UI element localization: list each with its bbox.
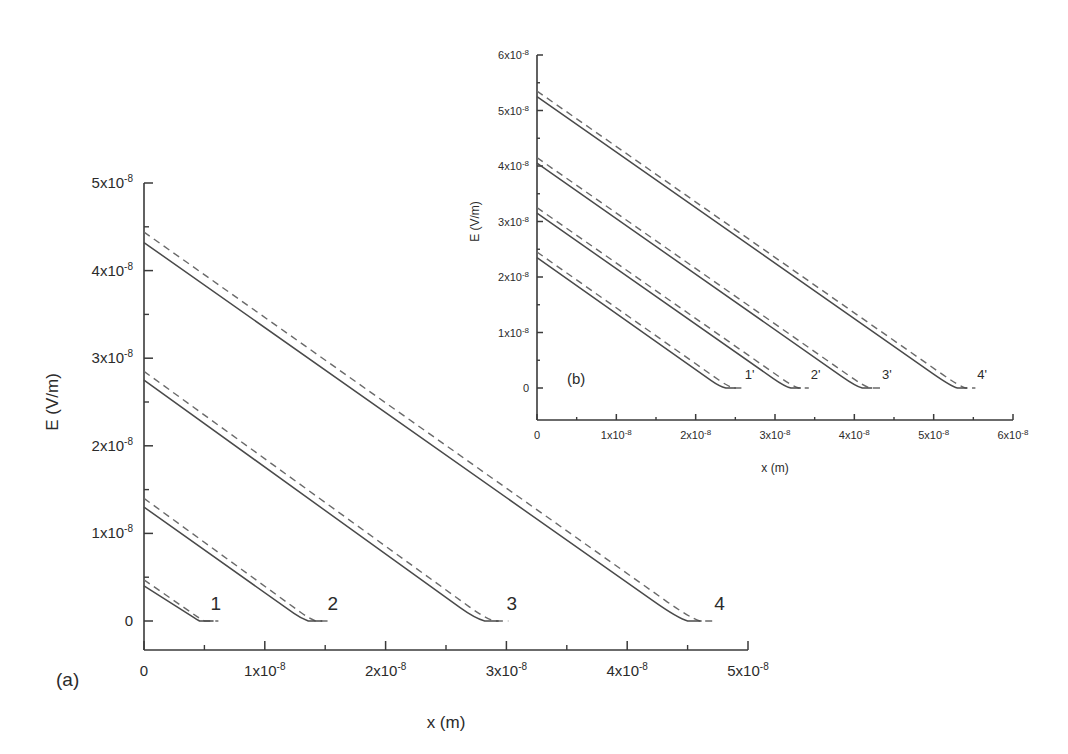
x-tick-label: 5x10-8 (727, 661, 769, 679)
x-axis-title: x (m) (761, 461, 788, 475)
x-tick-label: 4x10-8 (606, 661, 648, 679)
x-tick-label: 5x10-8 (918, 428, 950, 441)
y-axis-title: E (V/m) (43, 373, 62, 431)
y-tick-label: 3x10-8 (92, 348, 134, 366)
y-tick-label: 1x10-8 (92, 523, 134, 541)
curve-label-2: 2 (328, 593, 339, 614)
x-tick-label: 1x10-8 (601, 428, 633, 441)
x-tick-label: 4x10-8 (839, 428, 871, 441)
y-tick-label: 0 (523, 382, 529, 394)
curve-dashed-2' (537, 208, 809, 388)
figure-canvas: 01x10-82x10-83x10-84x10-85x10-801x10-82x… (0, 0, 1068, 754)
y-tick-label: 3x10-8 (498, 215, 530, 228)
curve-dashed-2 (144, 498, 330, 621)
panel-label: (a) (56, 669, 79, 690)
curve-label-2': 2' (811, 367, 821, 382)
x-tick-label: 6x10-8 (998, 428, 1030, 441)
figure-svg: 01x10-82x10-83x10-84x10-85x10-801x10-82x… (0, 0, 1068, 754)
panel-a-chart: 01x10-82x10-83x10-84x10-85x10-801x10-82x… (43, 173, 769, 732)
x-axis-title: x (m) (427, 713, 466, 732)
y-tick-label: 5x10-8 (498, 104, 530, 117)
curve-label-3: 3 (506, 593, 517, 614)
x-tick-label: 1x10-8 (244, 661, 286, 679)
curve-label-4': 4' (977, 367, 987, 382)
y-tick-label: 4x10-8 (92, 261, 134, 279)
y-tick-label: 0 (125, 612, 133, 629)
curve-dashed-4 (144, 232, 714, 621)
y-tick-label: 5x10-8 (92, 173, 134, 191)
curve-dashed-3' (537, 158, 880, 388)
y-axis-title: E (V/m) (468, 201, 482, 242)
curve-solid-4' (537, 97, 967, 388)
x-tick-label: 3x10-8 (760, 428, 792, 441)
y-tick-label: 6x10-8 (498, 48, 530, 61)
curve-label-1: 1 (210, 593, 221, 614)
x-tick-label: 2x10-8 (680, 428, 712, 441)
curve-dashed-3 (144, 371, 508, 621)
curve-dashed-1 (144, 580, 218, 621)
curve-dashed-1' (537, 252, 744, 388)
curve-label-4: 4 (714, 593, 725, 614)
x-tick-label: 3x10-8 (486, 661, 528, 679)
y-tick-label: 2x10-8 (92, 436, 134, 454)
panel-b-chart: 01x10-82x10-83x10-84x10-85x10-86x10-801x… (468, 48, 1029, 475)
x-tick-label: 0 (140, 662, 148, 679)
x-tick-label: 0 (534, 429, 540, 441)
y-tick-label: 4x10-8 (498, 159, 530, 172)
panel-label: (b) (567, 370, 585, 387)
y-tick-label: 1x10-8 (498, 326, 530, 339)
y-tick-label: 2x10-8 (498, 270, 530, 283)
curve-dashed-4' (537, 91, 975, 388)
curve-label-1': 1' (745, 367, 755, 382)
curve-label-3': 3' (882, 367, 892, 382)
x-tick-label: 2x10-8 (365, 661, 407, 679)
